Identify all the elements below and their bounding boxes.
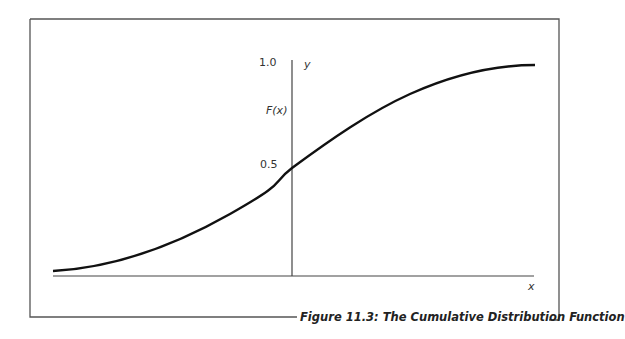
cdf-curve (53, 65, 535, 271)
curve-label: F(x) (266, 104, 287, 117)
figure-caption: Figure 11.3: The Cumulative Distribution… (300, 310, 625, 324)
frame (30, 19, 559, 320)
y-tick-05-label: 0.5 (260, 158, 278, 171)
x-axis-label: x (528, 280, 535, 293)
y-axis-label: y (304, 58, 311, 71)
y-tick-1-label: 1.0 (259, 56, 277, 69)
